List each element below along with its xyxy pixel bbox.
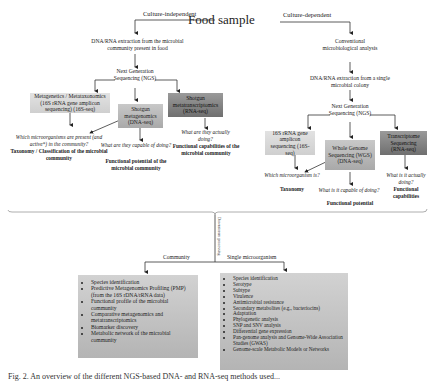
single-microorganism-panel: Species identification Serotype Subtype … xyxy=(220,273,348,370)
list-item: Predictive Metagenomics Profiling (PMP) … xyxy=(91,285,193,298)
list-item: Metabolic network of the microbial commu… xyxy=(91,330,193,343)
conventional-analysis-step: Conventional microbiological analysis xyxy=(320,38,380,51)
single-microorganism-list: Species identification Serotype Subtype … xyxy=(226,276,343,353)
right-question-potential: What is it capable of doing? xyxy=(318,187,380,194)
list-item: Comparative metagenomics and metatranscr… xyxy=(91,311,193,324)
left-ngs-step: Next Generation Sequencing (NGS) xyxy=(110,68,160,81)
left-question-capabilities: What are they actually doing? xyxy=(178,129,233,142)
figure-caption: Fig. 2. An overview of the different NGS… xyxy=(8,372,280,381)
right-extraction-step: DNA/RNA extraction from a single microbi… xyxy=(310,75,390,88)
downstream-processing-label: Downstream processing xyxy=(217,217,222,256)
right-question-taxonomy: Which microorganism is? xyxy=(262,172,322,179)
culture-dependent-label: Culture-dependent xyxy=(283,11,331,18)
left-question-potential: What are they capable of doing? xyxy=(100,142,172,149)
right-answer-taxonomy: Taxonomy xyxy=(262,186,322,193)
single-microorganism-label: Single microorganism xyxy=(227,254,276,260)
left-answer-capabilities: Functional capabilities of the microbial… xyxy=(172,143,240,156)
page-title: Food sample xyxy=(188,12,255,28)
list-item: Genome-scale Metabolic Models or Network… xyxy=(233,347,343,353)
wgs-box: Whole Genome Sequencing (WGS) (DNA-seq) xyxy=(325,140,375,170)
community-label: Community xyxy=(163,254,190,260)
left-answer-potential: Functional potential of the microbial co… xyxy=(95,158,177,171)
16s-amplicon-box: 16S rRNA gene amplicon sequencing (16S-s… xyxy=(265,131,315,155)
left-extraction-step: DNA/RNA extraction from the microbial co… xyxy=(90,38,185,51)
list-item: Functional profile of the microbial comm… xyxy=(91,298,193,311)
left-question-taxonomy: Which microorganisms are present (and ac… xyxy=(8,134,110,147)
culture-independent-label: Culture-independent xyxy=(143,10,196,17)
shotgun-metatranscriptomics-box: Shotgun metatranscriptomics (RNA-seq) xyxy=(168,93,223,117)
transcriptome-box: Transcriptome Sequencing (RNA-seq) xyxy=(380,131,427,155)
metagenetics-box: Metagenetics / Metataxonomics (16S rRNA … xyxy=(30,93,110,113)
community-list: Species identification Predictive Metage… xyxy=(84,279,193,343)
shotgun-metagenomics-box: Shotgun metagenomics (DNA-seq) xyxy=(118,104,163,128)
right-answer-capabilities: Functional capabilities xyxy=(382,186,430,199)
right-question-capabilities: What is it actually doing? xyxy=(382,172,430,185)
right-ngs-step: Next Generation Sequencing (NGS) xyxy=(325,103,375,116)
right-answer-potential: Functional potential xyxy=(315,200,385,207)
community-panel: Species identification Predictive Metage… xyxy=(78,275,198,358)
